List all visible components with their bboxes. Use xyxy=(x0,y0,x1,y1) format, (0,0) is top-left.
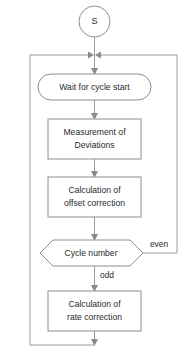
edge-label-odd: odd xyxy=(100,270,114,280)
node-measure-label-line1: Measurement of xyxy=(63,127,126,137)
node-rate-label-line2: rate correction xyxy=(67,312,122,322)
node-wait-label: Wait for cycle start xyxy=(59,82,130,92)
node-offset-label-line1: Calculation of xyxy=(68,185,121,195)
node-start-label: S xyxy=(91,16,97,26)
node-measure-shape[interactable] xyxy=(48,119,141,159)
node-decision-label: Cycle number xyxy=(64,248,117,258)
arrowhead-left-loop-junction xyxy=(88,52,94,59)
node-measure-label-line2: Deviations xyxy=(74,140,114,150)
flowchart-canvas: S Wait for cycle start Measurement of De… xyxy=(0,0,189,362)
flowchart-svg: S Wait for cycle start Measurement of De… xyxy=(0,0,189,362)
node-offset-shape[interactable] xyxy=(48,177,141,217)
arrowhead-right-loop-junction xyxy=(95,52,101,59)
node-offset-label-line2: offset correction xyxy=(64,198,125,208)
edge-label-even: even xyxy=(150,239,169,249)
node-rate-label-line1: Calculation of xyxy=(68,299,121,309)
node-rate-shape[interactable] xyxy=(48,291,141,331)
